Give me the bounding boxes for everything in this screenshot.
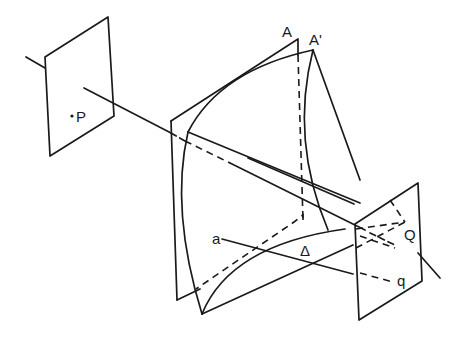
plane-a-hidden-edge	[298, 55, 303, 220]
label-q-upper: Q	[404, 226, 416, 243]
rays-to-q-dashed	[356, 200, 405, 282]
point-p	[70, 114, 73, 117]
label-q-lower: q	[397, 272, 405, 289]
label-a-lower: a	[212, 230, 221, 247]
curved-surface	[182, 50, 360, 314]
plane-q	[355, 183, 422, 320]
label-delta: Δ	[300, 242, 310, 259]
diagram-canvas: P A A' Q	[0, 0, 464, 339]
label-p: P	[76, 108, 86, 125]
axis-dashed-segment	[185, 141, 230, 163]
label-a-prime: A'	[309, 31, 322, 48]
plane-p	[26, 17, 114, 156]
plane-a-hidden-bottom	[196, 215, 303, 289]
label-a: A	[282, 23, 292, 40]
